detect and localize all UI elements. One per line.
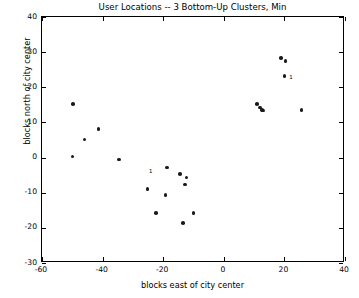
data-point	[178, 172, 182, 176]
y-axis-tick	[42, 158, 46, 159]
data-point	[146, 187, 150, 191]
x-axis-tick	[103, 257, 104, 261]
x-axis-label: blocks east of city center	[41, 280, 344, 290]
plot-area: 11	[41, 16, 344, 262]
data-point	[283, 74, 287, 78]
x-axis-tick-top	[345, 17, 346, 21]
y-axis-tick-label: 10	[3, 117, 37, 126]
data-point	[154, 211, 158, 215]
y-axis-tick-right	[339, 122, 343, 123]
x-axis-tick-top	[284, 17, 285, 21]
data-point	[71, 102, 75, 106]
data-point	[284, 59, 288, 63]
y-axis-tick	[42, 17, 46, 18]
data-point	[192, 211, 196, 215]
x-axis-tick-label: 20	[263, 265, 303, 274]
y-axis-label: blocks north of city center	[22, 11, 32, 171]
x-axis-tick	[284, 257, 285, 261]
y-axis-tick-label: -20	[3, 222, 37, 231]
data-point	[261, 109, 265, 113]
data-point	[185, 176, 189, 180]
x-axis-tick	[42, 257, 43, 261]
y-axis-tick	[42, 87, 46, 88]
y-axis-tick-right	[339, 228, 343, 229]
point-annotation: 1	[149, 168, 152, 174]
y-axis-tick-label: 30	[3, 47, 37, 56]
x-axis-tick	[224, 257, 225, 261]
data-point	[164, 193, 168, 197]
y-axis-tick	[42, 193, 46, 194]
x-axis-tick-label: 0	[203, 265, 243, 274]
y-axis-tick-right	[339, 17, 343, 18]
scatter-chart-figure: User Locations -- 3 Bottom-Up Clusters, …	[0, 0, 359, 298]
x-axis-tick-label: 40	[324, 265, 359, 274]
data-point	[97, 127, 101, 131]
data-points-layer: 11	[42, 17, 343, 261]
x-axis-tick-top	[103, 17, 104, 21]
x-axis-tick-label: -20	[142, 265, 182, 274]
data-point	[181, 221, 185, 225]
data-point	[165, 166, 169, 170]
data-point	[117, 158, 121, 162]
y-axis-tick-label: 0	[3, 152, 37, 161]
y-axis-tick-label: -10	[3, 187, 37, 196]
y-axis-tick-label: -30	[3, 258, 37, 267]
y-axis-tick-label: 20	[3, 82, 37, 91]
data-point	[183, 183, 187, 187]
data-point	[279, 56, 283, 60]
x-axis-tick-top	[224, 17, 225, 21]
y-axis-tick	[42, 263, 46, 264]
y-axis-tick-right	[339, 87, 343, 88]
y-axis-tick-right	[339, 263, 343, 264]
data-point	[83, 138, 87, 142]
data-point	[300, 108, 304, 112]
y-axis-tick	[42, 228, 46, 229]
chart-title: User Locations -- 3 Bottom-Up Clusters, …	[41, 2, 344, 13]
point-annotation: 1	[289, 74, 292, 80]
y-axis-tick-right	[339, 52, 343, 53]
x-axis-tick-label: -40	[82, 265, 122, 274]
x-axis-tick	[345, 257, 346, 261]
x-axis-tick-top	[163, 17, 164, 21]
y-axis-tick	[42, 52, 46, 53]
y-axis-tick-label: 40	[3, 12, 37, 21]
x-axis-tick	[163, 257, 164, 261]
data-point	[71, 155, 75, 159]
y-axis-tick	[42, 122, 46, 123]
y-axis-tick-right	[339, 158, 343, 159]
y-axis-tick-right	[339, 193, 343, 194]
